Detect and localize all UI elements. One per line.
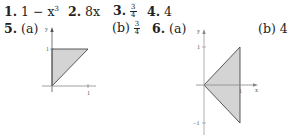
x-tick-label-5a: 1 (87, 90, 90, 96)
y-label-6a: y (197, 28, 200, 34)
graph-5a: y 1 1 y 1 −1 1 x (0, 0, 301, 139)
y-tick-label-5a: 1 (46, 46, 49, 52)
y-tick-top-label-6a: 1 (197, 44, 200, 50)
shaded-region-5a (52, 49, 88, 86)
y-axis-arrow-icon (202, 29, 205, 34)
y-axis-arrow-icon (50, 27, 53, 32)
y-tick-bottom-label-6a: −1 (193, 120, 199, 126)
x-label-6a: x (255, 87, 258, 93)
x-tick-label-6a: 1 (239, 88, 242, 94)
y-label-5a: y (45, 26, 48, 32)
